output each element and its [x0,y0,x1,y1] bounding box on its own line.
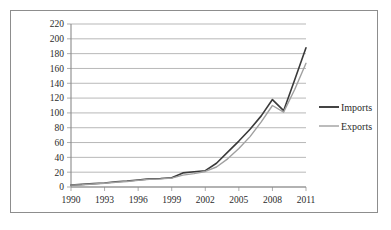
y-tick-label-80: 80 [55,123,65,133]
x-tick-label-2008: 2008 [263,195,282,205]
y-tick-label-60: 60 [55,138,65,148]
y-tick-label-200: 200 [50,34,65,44]
x-tick-label-2002: 2002 [196,195,215,205]
x-axis-tick-labels: 19901993199619992002200520082011 [62,195,316,205]
x-tick-label-1999: 1999 [162,195,181,205]
y-tick-marks [67,24,71,187]
y-tick-label-140: 140 [50,79,65,89]
y-tick-label-160: 160 [50,64,65,74]
y-tick-label-40: 40 [55,153,65,163]
x-tick-label-2005: 2005 [229,195,248,205]
y-tick-label-20: 20 [55,168,65,178]
y-axis-tick-labels: 020406080100120140160180200220 [50,19,65,192]
legend-label-exports: Exports [341,121,372,132]
y-tick-label-0: 0 [59,182,64,192]
y-tick-label-180: 180 [50,49,65,59]
chart-legend: ImportsExports [319,102,372,132]
y-tick-label-220: 220 [50,19,65,29]
legend-label-imports: Imports [341,102,372,113]
x-tick-marks [71,187,306,191]
x-tick-label-1993: 1993 [95,195,114,205]
x-tick-label-1990: 1990 [62,195,81,205]
y-tick-label-120: 120 [50,93,65,103]
x-tick-label-1996: 1996 [129,195,148,205]
series-line-exports [71,63,306,185]
gridlines [71,24,306,187]
chart-figure-frame: 020406080100120140160180200220 199019931… [10,10,378,213]
line-chart: 020406080100120140160180200220 199019931… [11,11,377,212]
x-tick-label-2011: 2011 [297,195,316,205]
y-tick-label-100: 100 [50,108,65,118]
